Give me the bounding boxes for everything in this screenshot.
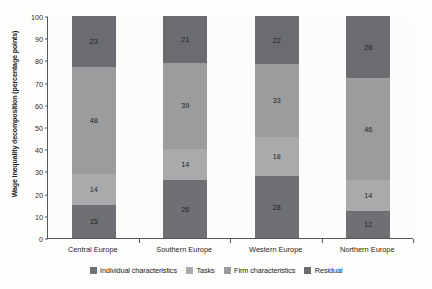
bar-segment[interactable]: 39 (163, 63, 207, 150)
x-tick-mark (413, 239, 414, 243)
y-tick-mark (45, 17, 49, 18)
legend-swatch-icon (186, 267, 193, 274)
y-tick-mark (45, 39, 49, 40)
legend-item[interactable]: Tasks (186, 266, 215, 275)
bar-segment[interactable]: 21 (163, 16, 207, 63)
x-tick-label: Central Europe (68, 245, 118, 254)
legend-swatch-icon (90, 267, 97, 274)
bar-segment[interactable]: 46 (346, 78, 390, 180)
stacked-bar[interactable]: 26143921 (163, 16, 207, 238)
legend-label: Tasks (196, 266, 214, 275)
plot-area: 1009080706050403020100 15144823261439212… (47, 17, 413, 239)
chart-figure: Wage inequality decomposition (percentag… (0, 0, 432, 289)
bar-segment-value: 14 (181, 161, 189, 168)
bar-segment[interactable]: 26 (163, 180, 207, 238)
x-tick-mark (139, 239, 140, 243)
legend-label: Residual (315, 266, 343, 275)
stacked-bar[interactable]: 15144823 (72, 16, 116, 238)
bar-segment-value: 28 (364, 44, 372, 51)
y-axis-title: Wage inequality decomposition (percentag… (11, 7, 19, 222)
legend-item[interactable]: Residual (304, 266, 342, 275)
y-tick-mark (45, 194, 49, 195)
bar-segment-value: 14 (364, 192, 372, 199)
legend-label: Individual characteristics (100, 266, 177, 275)
bar-segment-value: 21 (181, 36, 189, 43)
bar-segment[interactable]: 14 (163, 149, 207, 180)
y-tick-mark (45, 83, 49, 84)
bar-segment-value: 46 (364, 126, 372, 133)
y-tick-mark (45, 239, 49, 240)
y-tick-mark (45, 105, 49, 106)
bar-segment-value: 18 (273, 153, 281, 160)
chart-legend: Individual characteristicsTasksFirm char… (0, 266, 432, 275)
y-tick-mark (45, 128, 49, 129)
bar-segment[interactable]: 22 (255, 16, 299, 64)
bar-segment[interactable]: 23 (72, 16, 116, 67)
bar-segment-value: 22 (273, 37, 281, 44)
legend-label: Firm characteristics (234, 266, 295, 275)
bar-segment-value: 26 (181, 206, 189, 213)
x-tick-label: Southern Europe (156, 245, 212, 254)
x-tick-label: Northern Europe (340, 245, 395, 254)
bar-segment-value: 48 (90, 117, 98, 124)
y-tick-mark (45, 150, 49, 151)
x-tick-mark (230, 239, 231, 243)
bar-segment-value: 15 (90, 218, 98, 225)
legend-swatch-icon (224, 267, 231, 274)
legend-item[interactable]: Firm characteristics (224, 266, 296, 275)
bar-segment[interactable]: 12 (346, 211, 390, 238)
bar-segment-value: 12 (364, 221, 372, 228)
bar-segment[interactable]: 33 (255, 64, 299, 137)
stacked-bar[interactable]: 12144628 (346, 16, 390, 238)
bar-segment[interactable]: 48 (72, 67, 116, 174)
bar-segment[interactable]: 14 (346, 180, 390, 211)
bar-segment-value: 33 (273, 97, 281, 104)
legend-swatch-icon (304, 267, 311, 274)
x-tick-mark (322, 239, 323, 243)
y-tick-mark (45, 172, 49, 173)
legend-item[interactable]: Individual characteristics (90, 266, 177, 275)
stacked-bar[interactable]: 28183322 (255, 16, 299, 238)
y-tick-mark (45, 216, 49, 217)
bar-segment[interactable]: 18 (255, 137, 299, 177)
bar-segment-value: 28 (273, 204, 281, 211)
bar-segment-value: 23 (90, 38, 98, 45)
bar-segment-value: 14 (90, 186, 98, 193)
bar-segment[interactable]: 15 (72, 205, 116, 238)
bar-segment[interactable]: 28 (346, 16, 390, 78)
bar-segment[interactable]: 14 (72, 174, 116, 205)
bar-segment[interactable]: 28 (255, 176, 299, 238)
bar-segment-value: 39 (181, 102, 189, 109)
y-tick-mark (45, 61, 49, 62)
x-tick-label: Western Europe (249, 245, 302, 254)
